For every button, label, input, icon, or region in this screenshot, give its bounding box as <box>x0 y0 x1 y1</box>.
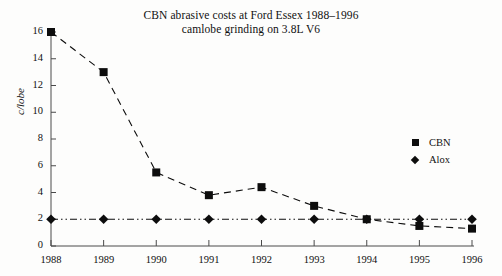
y-tick-label: 12 <box>17 79 43 90</box>
y-tick-label: 14 <box>17 52 43 63</box>
data-point-cbn-1991[interactable] <box>205 191 213 199</box>
data-point-alox-1989[interactable] <box>99 214 109 224</box>
legend-label-cbn: CBN <box>429 137 451 148</box>
y-axis-ticks <box>51 32 56 246</box>
data-point-alox-1988[interactable] <box>46 214 56 224</box>
series-cbn <box>47 28 476 233</box>
data-point-alox-1991[interactable] <box>204 214 214 224</box>
x-tick-label: 1991 <box>186 254 232 265</box>
y-tick-label: 16 <box>17 25 43 36</box>
diamond-marker-icon <box>408 153 422 167</box>
x-tick-label: 1992 <box>239 254 285 265</box>
y-tick-label: 8 <box>17 132 43 143</box>
x-tick-label: 1993 <box>291 254 337 265</box>
data-point-cbn-1989[interactable] <box>100 68 108 76</box>
x-tick-label: 1996 <box>449 254 495 265</box>
data-point-alox-1992[interactable] <box>257 214 267 224</box>
data-point-cbn-1993[interactable] <box>310 202 318 210</box>
series-alox <box>46 214 477 224</box>
data-series-layer <box>46 28 477 233</box>
x-axis-ticks <box>51 240 472 246</box>
x-tick-label: 1995 <box>396 254 442 265</box>
data-point-alox-1996[interactable] <box>467 214 477 224</box>
square-marker-icon <box>408 136 422 150</box>
data-point-cbn-1996[interactable] <box>468 225 476 233</box>
data-point-cbn-1992[interactable] <box>258 183 266 191</box>
series-line-cbn <box>51 32 472 229</box>
y-tick-label: 4 <box>17 186 43 197</box>
y-tick-label: 10 <box>17 105 43 116</box>
data-point-cbn-1990[interactable] <box>152 168 160 176</box>
x-tick-label: 1990 <box>133 254 179 265</box>
data-point-alox-1990[interactable] <box>151 214 161 224</box>
legend-item-cbn[interactable]: CBN <box>408 134 451 151</box>
x-tick-label: 1988 <box>28 254 74 265</box>
legend-label-alox: Alox <box>429 154 450 165</box>
chart-container: CBN abrasive costs at Ford Essex 1988–19… <box>0 0 502 276</box>
x-tick-label: 1994 <box>344 254 390 265</box>
y-tick-label: 6 <box>17 159 43 170</box>
data-point-cbn-1988[interactable] <box>47 28 55 36</box>
data-point-alox-1993[interactable] <box>309 214 319 224</box>
y-tick-label: 0 <box>17 239 43 250</box>
y-tick-label: 2 <box>17 212 43 223</box>
chart-legend: CBN Alox <box>408 134 451 168</box>
x-tick-label: 1989 <box>81 254 127 265</box>
legend-item-alox[interactable]: Alox <box>408 151 451 168</box>
